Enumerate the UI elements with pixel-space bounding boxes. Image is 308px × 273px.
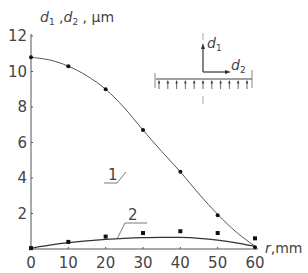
load-arrowhead-icon — [158, 80, 161, 84]
y-ticks: 24681012 — [8, 27, 33, 223]
series-2-point — [66, 240, 70, 244]
axes — [31, 34, 258, 249]
series-2-point — [253, 236, 257, 240]
inset-schematic: d1 d2 — [155, 33, 252, 104]
load-arrowhead-icon — [167, 80, 170, 84]
x-tick-label: 0 — [26, 254, 36, 272]
series-2-point — [104, 235, 108, 239]
load-arrowhead-icon — [211, 80, 214, 84]
y-tick-label: 6 — [17, 134, 27, 152]
x-title-unit: ,mm — [271, 240, 303, 256]
load-arrowhead-icon — [193, 80, 196, 84]
x-tick-label: 60 — [245, 254, 264, 272]
load-arrowhead-icon — [228, 80, 231, 84]
series-1-point — [29, 55, 33, 59]
load-arrowhead-icon — [246, 80, 249, 84]
y-tick-label: 8 — [17, 98, 27, 116]
series-2-point — [216, 231, 220, 235]
series-2-point — [29, 246, 33, 250]
x-tick-label: 40 — [171, 254, 190, 272]
curve-2-label: 2 — [128, 206, 138, 224]
series-1-point — [253, 245, 257, 249]
series-2-point — [178, 229, 182, 233]
load-arrowhead-icon — [184, 80, 187, 84]
series-1-point — [104, 87, 108, 91]
y-tick-label: 2 — [17, 205, 27, 223]
x-tick-label: 20 — [96, 254, 115, 272]
series-1-point — [66, 64, 70, 68]
d1-arrowhead-icon — [201, 43, 205, 49]
x-ticks: 0102030405060 — [26, 247, 264, 272]
load-arrowhead-icon — [237, 80, 240, 84]
inset-d1-label: d1 — [207, 35, 222, 53]
x-axis-title: r,mm — [265, 240, 303, 256]
y-tick-label: 12 — [8, 27, 27, 45]
curve-1-label-group: 1 — [104, 166, 126, 184]
load-arrowhead-icon — [202, 80, 205, 84]
markers — [29, 55, 257, 250]
y-title-d2: d — [64, 9, 73, 25]
series-1-point — [216, 213, 220, 217]
series-2-point — [141, 231, 145, 235]
y-tick-label: 10 — [8, 63, 27, 81]
y-tick-label: 4 — [17, 169, 27, 187]
displacement-chart: 24681012 0102030405060 d1 ,d2 , μm r,mm … — [0, 0, 308, 273]
y-axis-title: d1 ,d2 , μm — [40, 9, 114, 27]
y-title-d1: d — [40, 9, 49, 25]
y-title-unit: , μm — [78, 9, 114, 25]
load-arrowhead-icon — [175, 80, 178, 84]
x-tick-label: 30 — [133, 254, 152, 272]
series-1-point — [141, 128, 145, 132]
x-tick-label: 50 — [208, 254, 227, 272]
x-tick-label: 10 — [59, 254, 78, 272]
series-1-point — [178, 170, 182, 174]
curve-2-leader — [117, 223, 147, 239]
series-2-line — [31, 237, 255, 248]
inset-d2-label: d2 — [231, 57, 246, 75]
curves — [31, 57, 255, 248]
y-title-sep: , — [55, 9, 64, 25]
curve-1-label: 1 — [108, 166, 118, 184]
load-arrows — [158, 80, 249, 89]
series-1-line — [31, 57, 255, 246]
load-arrowhead-icon — [219, 80, 222, 84]
